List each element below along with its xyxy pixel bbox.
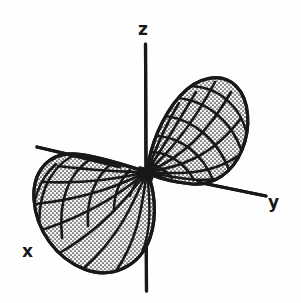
orbital-diagram-svg — [0, 0, 301, 303]
axis-label-x: x — [22, 243, 33, 260]
axis-label-y: y — [268, 194, 279, 211]
axis-label-z: z — [138, 21, 148, 38]
orbital-figure: z y x — [0, 0, 301, 303]
